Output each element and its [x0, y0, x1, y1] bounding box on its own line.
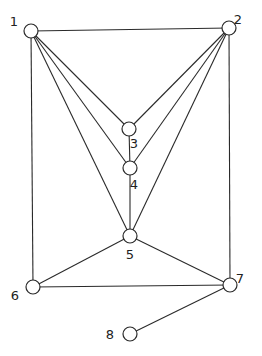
node-label-6: 6: [11, 288, 19, 303]
edge-5-7: [130, 236, 230, 285]
graph-diagram: 12345678: [0, 0, 262, 356]
node-3: [122, 122, 136, 136]
node-4: [123, 161, 137, 175]
edge-2-4: [130, 28, 229, 168]
edge-1-2: [31, 28, 229, 31]
node-label-5: 5: [126, 247, 134, 262]
node-label-3: 3: [130, 136, 138, 151]
node-1: [24, 24, 38, 38]
node-label-2: 2: [234, 12, 242, 27]
edge-2-7: [229, 28, 230, 285]
node-5: [123, 229, 137, 243]
edge-1-3: [31, 31, 129, 129]
node-8: [123, 327, 137, 341]
edge-5-6: [33, 236, 130, 287]
label-layer: 12345678: [10, 12, 244, 342]
edge-2-5: [130, 28, 229, 236]
node-label-1: 1: [10, 14, 18, 29]
node-label-8: 8: [106, 327, 114, 342]
edge-7-8: [130, 285, 230, 334]
node-label-7: 7: [236, 271, 244, 286]
edge-1-4: [31, 31, 130, 168]
edge-2-3: [129, 28, 229, 129]
edge-1-5: [31, 31, 130, 236]
node-label-4: 4: [130, 177, 138, 192]
edge-6-7: [33, 285, 230, 287]
edge-1-6: [31, 31, 33, 287]
node-6: [26, 280, 40, 294]
